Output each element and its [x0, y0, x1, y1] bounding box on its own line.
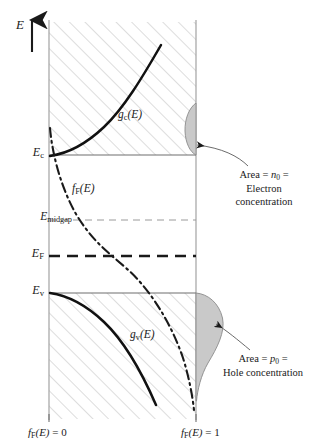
bottom-axis-right-label: fF(E) = 1	[181, 426, 220, 441]
valence-band-hatch	[49, 293, 196, 419]
fF-curve-label: fF(E)	[72, 182, 95, 196]
gv-argument: (E)	[140, 328, 155, 340]
hole-callout-line2: Hole concentration	[217, 366, 309, 379]
hole-concentration-callout: Area = p0 = Hole concentration	[217, 352, 309, 379]
band-diagram-figure: E Ec Emidgap EF Ev gc(E) gv(E) fF(E) fF(…	[0, 0, 310, 448]
hole-concentration-area	[196, 293, 223, 401]
hole-area-prefix: Area =	[238, 353, 270, 364]
hole-area-suffix: =	[279, 353, 288, 364]
midgap-level-label: Emidgap	[0, 210, 72, 224]
conduction-band-hatch	[49, 22, 196, 155]
conduction-band-edge-label: Ec	[4, 146, 44, 161]
electron-callout-line1: Area = n0 =	[221, 168, 307, 182]
bottom-axis-left-label: fF(E) = 0	[28, 426, 67, 441]
electron-area-suffix: =	[280, 169, 289, 180]
gc-argument: (E)	[127, 108, 142, 120]
gv-curve-label: gv(E)	[130, 328, 155, 342]
valence-band-edge-label: Ev	[4, 284, 44, 299]
Ec-subscript: c	[40, 150, 44, 160]
hole-callout-line1: Area = p0 =	[217, 352, 309, 366]
fermi-level-label: EF	[4, 247, 44, 262]
electron-callout-line2: Electron	[221, 182, 307, 195]
Ev-subscript: v	[40, 288, 44, 298]
electron-area-prefix: Area =	[239, 169, 271, 180]
electron-concentration-callout: Area = n0 = Electron concentration	[221, 168, 307, 208]
EF-subscript: F	[39, 251, 44, 261]
Ev-symbol: E	[32, 283, 39, 297]
fF-argument: (E)	[80, 182, 95, 194]
electron-callout-leader	[197, 145, 248, 166]
energy-axis-label: E	[16, 18, 24, 33]
Emidgap-subscript: midgap	[47, 215, 72, 224]
electron-callout-line3: concentration	[221, 195, 307, 208]
gc-curve-label: gc(E)	[118, 108, 142, 122]
